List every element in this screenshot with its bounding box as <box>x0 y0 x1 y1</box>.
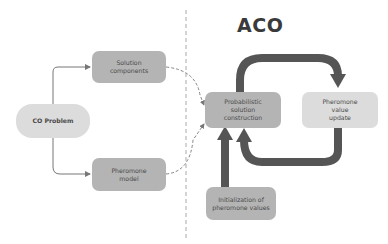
arc-update-to-construction <box>244 128 338 162</box>
node-pheromone-update: Pheromone value update <box>302 92 378 128</box>
node-solution-components: Solution components <box>92 51 166 83</box>
arrow-co-to-components <box>53 67 90 104</box>
node-pheromone-model: Pheromone model <box>92 158 166 191</box>
node-probabilistic-construction: Probabilistic solution construction <box>205 92 281 128</box>
node-co-problem: CO Problem <box>16 104 90 138</box>
aco-title: ACO <box>237 14 283 36</box>
node-initialization: Initialization of pheromone values <box>206 187 276 220</box>
dashed-model-to-construction <box>166 124 204 174</box>
aco-diagram: ACO CO Problem Solution components Phero… <box>0 0 388 244</box>
arc-construction-to-update <box>240 58 338 92</box>
arrow-co-to-pheromone-model <box>53 138 90 174</box>
dashed-components-to-construction <box>166 67 204 105</box>
